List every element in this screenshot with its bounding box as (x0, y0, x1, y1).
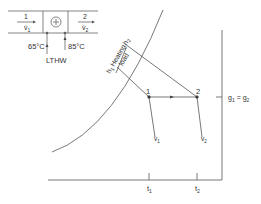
specific-volume-line-v1 (149, 97, 155, 137)
saturation-curve (52, 10, 163, 152)
enthalpy-line-h2 (125, 44, 197, 97)
outlet-flow-label: v̇2 (82, 24, 89, 33)
inlet-arrowhead-icon (33, 21, 36, 24)
lthw-label: LTHW (46, 56, 68, 65)
inlet-flow-label: v̇1 (24, 24, 31, 33)
v2-label: v2 (201, 135, 207, 144)
process-arrow-icon (170, 96, 174, 99)
psychrometric-heating-diagram: 1 v̇1 2 v̇2 65°C 85°C LTHW 1 2 g1 = g2 v… (0, 0, 261, 204)
moisture-content-label: g1 = g2 (228, 94, 250, 103)
outlet-arrowhead-icon (92, 21, 95, 24)
specific-volume-line-v2 (197, 97, 202, 137)
return-temp-label: 85°C (68, 42, 85, 51)
outlet-label: 2 (83, 13, 87, 20)
heating-load-annotation: h1 Heating load h2 (105, 36, 137, 78)
flow-arrow-icon (46, 44, 49, 47)
flow-pipe-joint (46, 32, 48, 34)
state-point-2 (196, 96, 199, 99)
return-pipe-joint (64, 32, 66, 34)
return-arrow-icon (64, 37, 67, 40)
inlet-label: 1 (24, 13, 28, 20)
point-2-label: 2 (196, 87, 200, 96)
v1-label: v1 (154, 135, 160, 144)
t2-label: t2 (195, 184, 200, 194)
enthalpy-line-h1 (117, 67, 149, 97)
state-point-1 (148, 96, 151, 99)
point-1-label: 1 (146, 87, 150, 96)
flow-temp-label: 65°C (28, 42, 45, 51)
t1-label: t1 (147, 184, 152, 194)
